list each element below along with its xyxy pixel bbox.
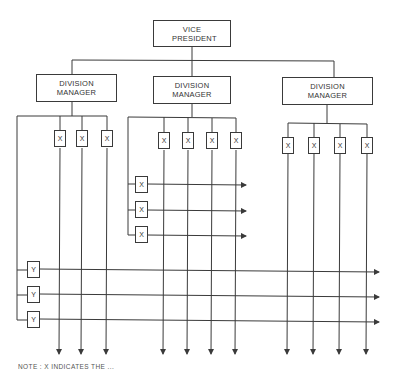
vice-president-label: VICE PRESIDENT: [172, 25, 212, 43]
x-side-unit-box: X: [135, 226, 148, 243]
x-unit-box: X: [206, 132, 218, 149]
x-unit-box: X: [76, 130, 88, 147]
y-unit-box: Y: [27, 261, 40, 278]
y-unit-box: Y: [27, 311, 40, 328]
division-manager-label: DIVISION MANAGER: [167, 81, 217, 99]
connector-lines: [0, 0, 397, 371]
x-unit-box: X: [158, 132, 170, 149]
x-unit-box: X: [182, 132, 194, 149]
division-manager-label: DIVISION MANAGER: [52, 79, 102, 97]
footnote: NOTE : X INDICATES THE ...: [18, 363, 114, 371]
x-unit-box: X: [230, 132, 242, 149]
division-manager-box-1: DIVISION MANAGER: [36, 74, 117, 102]
x-unit-box: X: [361, 137, 373, 154]
x-side-unit-box: X: [135, 176, 148, 193]
vice-president-box: VICE PRESIDENT: [153, 20, 231, 47]
y-unit-box: Y: [27, 286, 40, 303]
x-unit-box: X: [308, 137, 320, 154]
division-manager-label: DIVISION MANAGER: [303, 82, 353, 100]
division-manager-box-3: DIVISION MANAGER: [282, 77, 373, 105]
x-unit-box: X: [101, 130, 113, 147]
x-unit-box: X: [54, 130, 66, 147]
division-manager-box-2: DIVISION MANAGER: [153, 76, 231, 104]
x-unit-box: X: [334, 137, 346, 154]
x-side-unit-box: X: [135, 201, 148, 218]
x-unit-box: X: [282, 137, 294, 154]
